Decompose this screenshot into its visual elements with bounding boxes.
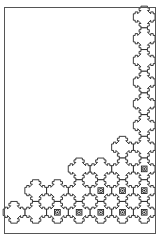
tile-center-dot bbox=[143, 190, 145, 192]
tile-center-dot bbox=[100, 211, 102, 213]
tile-center-dot bbox=[57, 211, 59, 213]
tiling-diagram bbox=[0, 0, 163, 241]
tile-center-dot bbox=[78, 211, 80, 213]
tile-center-dot bbox=[122, 190, 124, 192]
tile-center-dot bbox=[143, 211, 145, 213]
tile-center-dot bbox=[143, 168, 145, 170]
figure-canvas: Interlocking Cross-Tile Tiling Figure bbox=[0, 0, 163, 241]
tile-center-dot bbox=[100, 190, 102, 192]
tile-center-dot bbox=[122, 211, 124, 213]
